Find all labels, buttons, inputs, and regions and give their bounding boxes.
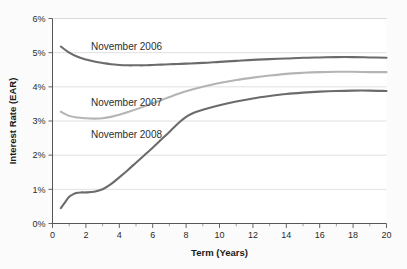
y-tick-label-1: 1%: [32, 185, 45, 195]
y-tick-label-4: 4%: [32, 82, 45, 92]
chart-figure: 02468101214161820 0%1%2%3%4%5%6% Novembe…: [0, 0, 407, 269]
x-tick-label-12: 12: [248, 230, 258, 240]
y-tick-label-0: 0%: [32, 219, 45, 229]
x-tick-label-16: 16: [315, 230, 325, 240]
series-annotation-1: November 2006: [91, 41, 163, 52]
series-annotation-2: November 2007: [91, 97, 163, 108]
x-tick-label-8: 8: [184, 230, 189, 240]
interest-rate-line-chart: 02468101214161820 0%1%2%3%4%5%6% Novembe…: [0, 0, 407, 269]
series-annotation-3: November 2008: [91, 129, 163, 140]
x-tick-label-18: 18: [348, 230, 358, 240]
y-axis-title: Interest Rate (EAR): [7, 78, 18, 165]
y-tick-label-2: 2%: [32, 150, 45, 160]
x-tick-label-10: 10: [214, 230, 224, 240]
y-tick-label-5: 5%: [32, 48, 45, 58]
x-tick-label-6: 6: [150, 230, 155, 240]
y-tick-label-3: 3%: [32, 116, 45, 126]
x-tick-label-20: 20: [381, 230, 391, 240]
x-tick-label-4: 4: [117, 230, 122, 240]
x-tick-label-14: 14: [281, 230, 291, 240]
x-axis-title: Term (Years): [191, 247, 248, 258]
x-tick-label-0: 0: [50, 230, 55, 240]
x-tick-label-2: 2: [83, 230, 88, 240]
y-tick-label-6: 6%: [32, 14, 45, 24]
